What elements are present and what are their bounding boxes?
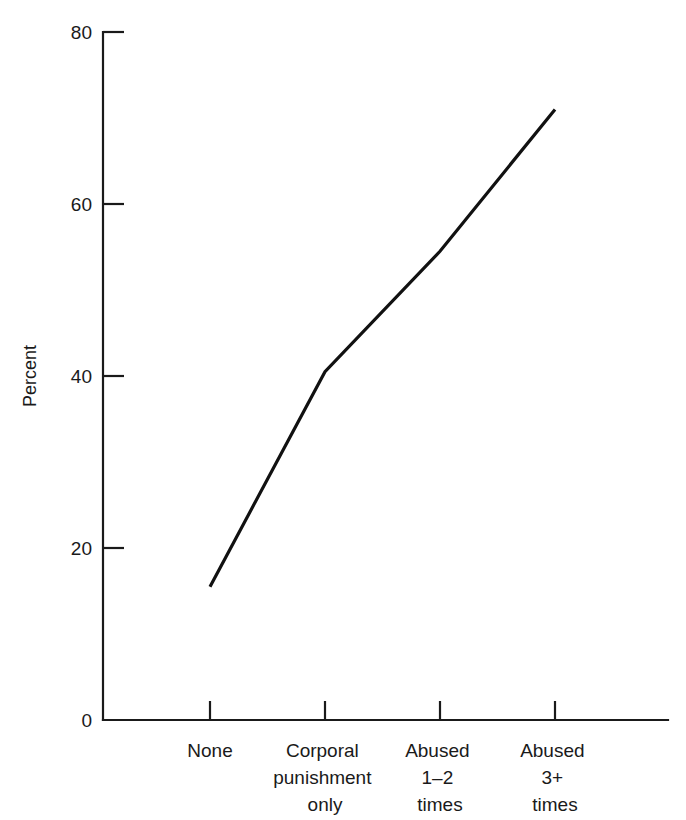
x-category-4-line-3: times — [532, 794, 577, 815]
y-axis-ticks — [103, 32, 124, 548]
y-tick-label-40: 40 — [71, 366, 92, 387]
x-category-2-line-2: punishment — [273, 767, 372, 788]
y-tick-label-80: 80 — [71, 22, 92, 43]
x-category-4-line-1: Abused — [520, 740, 584, 761]
line-chart-canvas: 80 60 40 20 0 Percent None Corporal puni… — [0, 0, 686, 820]
y-axis-tick-labels: 80 60 40 20 0 — [71, 22, 92, 731]
x-category-3-line-3: times — [417, 794, 462, 815]
y-tick-label-0: 0 — [81, 710, 92, 731]
x-category-label-3: Abused 1–2 times — [405, 740, 475, 815]
x-category-4-line-2: 3+ — [542, 767, 564, 788]
y-axis-title: Percent — [20, 345, 40, 407]
data-series-line — [210, 109, 555, 586]
x-category-label-4: Abused 3+ times — [520, 740, 590, 815]
x-category-3-line-2: 1–2 — [422, 767, 454, 788]
y-tick-label-60: 60 — [71, 194, 92, 215]
x-axis-ticks — [210, 701, 555, 720]
x-category-label-1: None — [187, 740, 232, 761]
x-category-3-line-1: Abused — [405, 740, 469, 761]
x-category-2-line-1: Corporal — [286, 740, 359, 761]
x-category-label-2: Corporal punishment only — [273, 740, 377, 815]
chart-figure: 80 60 40 20 0 Percent None Corporal puni… — [0, 0, 686, 820]
y-tick-label-20: 20 — [71, 538, 92, 559]
x-category-2-line-3: only — [308, 794, 343, 815]
x-axis-category-labels: None Corporal punishment only Abused 1–2… — [187, 740, 590, 815]
x-category-1-line-1: None — [187, 740, 232, 761]
